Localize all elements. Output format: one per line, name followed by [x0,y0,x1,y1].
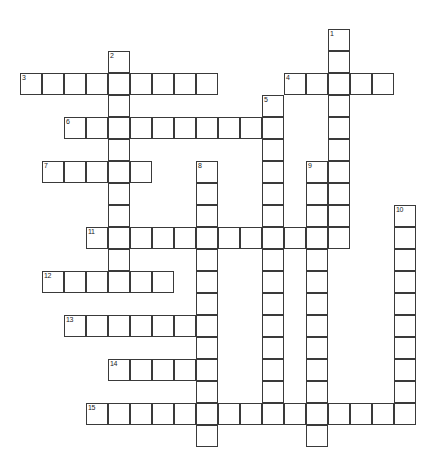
crossword-cell[interactable] [328,73,350,95]
crossword-cell[interactable] [306,359,328,381]
crossword-cell[interactable] [306,271,328,293]
crossword-cell[interactable] [306,205,328,227]
crossword-cell[interactable] [64,161,86,183]
crossword-cell[interactable] [108,95,130,117]
crossword-cell[interactable] [306,183,328,205]
crossword-cell[interactable] [394,293,416,315]
crossword-cell[interactable] [218,227,240,249]
crossword-cell[interactable] [328,227,350,249]
crossword-cell[interactable] [108,315,130,337]
crossword-cell[interactable] [262,117,284,139]
crossword-cell[interactable]: 14 [108,359,130,381]
crossword-cell[interactable] [262,249,284,271]
crossword-cell[interactable] [108,205,130,227]
crossword-cell[interactable] [262,183,284,205]
crossword-cell[interactable] [328,139,350,161]
crossword-cell[interactable] [394,403,416,425]
crossword-cell[interactable] [328,183,350,205]
crossword-cell[interactable]: 15 [86,403,108,425]
crossword-cell[interactable]: 8 [196,161,218,183]
crossword-cell[interactable] [328,205,350,227]
crossword-cell[interactable] [130,161,152,183]
crossword-cell[interactable] [108,161,130,183]
crossword-cell[interactable] [86,161,108,183]
crossword-cell[interactable] [174,315,196,337]
crossword-cell[interactable]: 1 [328,29,350,51]
crossword-cell[interactable] [64,271,86,293]
crossword-cell[interactable] [130,117,152,139]
crossword-cell[interactable] [218,117,240,139]
crossword-cell[interactable] [174,359,196,381]
crossword-cell[interactable] [262,161,284,183]
crossword-cell[interactable]: 12 [42,271,64,293]
crossword-cell[interactable]: 10 [394,205,416,227]
crossword-cell[interactable] [196,117,218,139]
crossword-cell[interactable] [240,403,262,425]
crossword-cell[interactable] [284,227,306,249]
crossword-cell[interactable] [262,337,284,359]
crossword-cell[interactable] [174,117,196,139]
crossword-cell[interactable] [262,359,284,381]
crossword-cell[interactable]: 13 [64,315,86,337]
crossword-cell[interactable] [64,73,86,95]
crossword-cell[interactable]: 6 [64,117,86,139]
crossword-cell[interactable] [262,293,284,315]
crossword-cell[interactable] [130,271,152,293]
crossword-cell[interactable] [350,403,372,425]
crossword-cell[interactable] [306,337,328,359]
crossword-cell[interactable] [394,381,416,403]
crossword-cell[interactable] [108,183,130,205]
crossword-cell[interactable]: 2 [108,51,130,73]
crossword-cell[interactable] [196,249,218,271]
crossword-cell[interactable] [108,73,130,95]
crossword-cell[interactable] [394,315,416,337]
crossword-cell[interactable] [372,73,394,95]
crossword-cell[interactable]: 7 [42,161,64,183]
crossword-cell[interactable] [262,205,284,227]
crossword-cell[interactable] [174,73,196,95]
crossword-cell[interactable] [306,425,328,447]
crossword-cell[interactable] [130,73,152,95]
crossword-cell[interactable] [108,139,130,161]
crossword-cell[interactable] [262,227,284,249]
crossword-cell[interactable] [174,403,196,425]
crossword-cell[interactable] [130,227,152,249]
crossword-cell[interactable] [218,403,240,425]
crossword-cell[interactable] [394,249,416,271]
crossword-cell[interactable] [306,403,328,425]
crossword-cell[interactable] [262,139,284,161]
crossword-cell[interactable] [328,403,350,425]
crossword-grid[interactable]: 123456789101112131415 [0,0,428,454]
crossword-cell[interactable] [394,337,416,359]
crossword-cell[interactable]: 5 [262,95,284,117]
crossword-cell[interactable] [108,227,130,249]
crossword-cell[interactable] [372,403,394,425]
crossword-cell[interactable] [262,403,284,425]
crossword-cell[interactable] [196,425,218,447]
crossword-cell[interactable] [284,403,306,425]
crossword-cell[interactable] [108,271,130,293]
crossword-cell[interactable] [130,359,152,381]
crossword-cell[interactable]: 3 [20,73,42,95]
crossword-cell[interactable] [152,271,174,293]
crossword-cell[interactable] [350,73,372,95]
crossword-cell[interactable]: 4 [284,73,306,95]
crossword-cell[interactable] [108,403,130,425]
crossword-cell[interactable] [328,117,350,139]
crossword-cell[interactable]: 9 [306,161,328,183]
crossword-cell[interactable] [328,161,350,183]
crossword-cell[interactable] [306,249,328,271]
crossword-cell[interactable] [306,315,328,337]
crossword-cell[interactable] [152,73,174,95]
crossword-cell[interactable] [152,359,174,381]
crossword-cell[interactable] [196,227,218,249]
crossword-cell[interactable] [130,315,152,337]
crossword-cell[interactable] [328,95,350,117]
crossword-cell[interactable] [262,271,284,293]
crossword-cell[interactable] [394,359,416,381]
crossword-cell[interactable] [152,117,174,139]
crossword-cell[interactable] [262,381,284,403]
crossword-cell[interactable] [196,337,218,359]
crossword-cell[interactable] [240,227,262,249]
crossword-cell[interactable] [328,51,350,73]
